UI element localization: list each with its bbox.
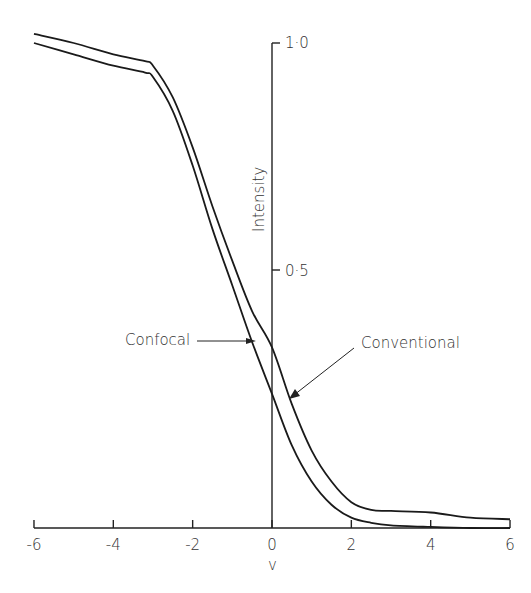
x-tick-label: 0: [267, 536, 277, 554]
x-tick-label: 4: [426, 536, 436, 554]
x-axis-ticks: -6-4-20246: [26, 520, 514, 554]
x-tick-label: -4: [106, 536, 121, 554]
x-tick-label: 6: [505, 536, 515, 554]
x-tick-label: 2: [347, 536, 357, 554]
annotation-conventional: Conventional: [361, 334, 460, 352]
y-axis-label: Intensity: [250, 167, 268, 232]
y-tick-label-1: 1·0: [285, 34, 309, 52]
y-tick-label-0-5: 0·5: [285, 262, 309, 280]
arrowhead-conventional-icon: [289, 389, 300, 399]
arrow-conventional: [294, 348, 354, 395]
intensity-chart: -6-4-20246 1·0 0·5 Intensity v Confocal …: [0, 0, 531, 593]
x-axis-label: v: [268, 556, 277, 574]
x-tick-label: -2: [185, 536, 200, 554]
x-tick-label: -6: [26, 536, 41, 554]
annotation-confocal: Confocal: [125, 331, 190, 349]
